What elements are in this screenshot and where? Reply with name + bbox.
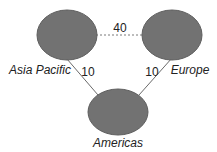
edge-label-europe-americas: 10	[145, 65, 159, 79]
node-label-europe: Europe	[171, 63, 210, 77]
node-americas	[88, 89, 148, 135]
network-diagram: 40 10 10 Asia Pacific Europe Americas	[0, 0, 217, 152]
node-label-americas: Americas	[92, 136, 143, 150]
node-label-asia-pacific: Asia Pacific	[8, 63, 71, 77]
node-asia-pacific	[37, 10, 97, 60]
node-europe	[142, 10, 202, 60]
edge-label-asia-pacific-americas: 10	[81, 65, 95, 79]
edge-label-asia-pacific-europe: 40	[113, 21, 127, 35]
